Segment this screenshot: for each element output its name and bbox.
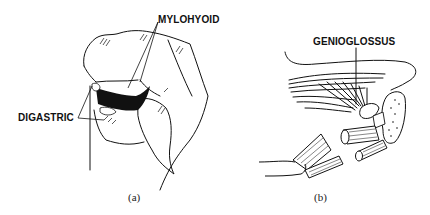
- caption-panel-b: (b): [314, 191, 327, 203]
- panel-a-mandible-illustration: MYLOHYOID DIGASTRIC (a): [0, 0, 215, 215]
- mandible-drawing: [0, 0, 215, 215]
- label-genioglossus: GENIOGLOSSUS: [313, 36, 395, 47]
- label-digastric: DIGASTRIC: [18, 112, 74, 123]
- panel-b-genioglossus-illustration: GENIOGLOSSUS (b): [215, 0, 430, 215]
- genioglossus-drawing: [215, 0, 430, 215]
- caption-panel-a: (a): [128, 191, 140, 203]
- label-mylohyoid: MYLOHYOID: [158, 14, 219, 25]
